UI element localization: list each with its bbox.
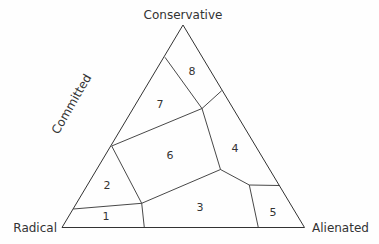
boundary-8-4 <box>202 91 222 109</box>
side-label-committed: Committed <box>49 72 95 137</box>
region-label-3: 3 <box>197 201 204 214</box>
outer-triangle <box>62 25 305 228</box>
region-boundaries <box>73 57 279 227</box>
region-label-5: 5 <box>270 206 277 219</box>
boundary-6-4 <box>202 109 221 170</box>
diagram-canvas: Conservative Radical Alienated Committed… <box>0 0 379 244</box>
boundary-6-3 <box>142 170 221 204</box>
region-label-2: 2 <box>104 179 111 192</box>
boundary-7-6 <box>112 109 202 147</box>
region-label-6: 6 <box>167 149 174 162</box>
vertex-label-radical: Radical <box>13 221 57 235</box>
boundary-4-5 <box>249 185 279 186</box>
region-label-7: 7 <box>157 98 164 111</box>
boundary-8-7 <box>165 57 202 108</box>
ternary-diagram: Conservative Radical Alienated Committed… <box>0 0 379 244</box>
vertex-label-alienated: Alienated <box>312 221 369 235</box>
boundary-6-2 <box>112 146 142 203</box>
region-label-1: 1 <box>103 210 110 223</box>
boundary-3-5 <box>249 185 258 228</box>
vertex-label-conservative: Conservative <box>144 8 223 22</box>
region-label-4: 4 <box>232 142 239 155</box>
boundary-1-3 <box>142 203 145 227</box>
boundary-2-1 <box>73 203 141 209</box>
boundary-4-3 <box>221 170 250 186</box>
region-label-8: 8 <box>189 65 196 78</box>
